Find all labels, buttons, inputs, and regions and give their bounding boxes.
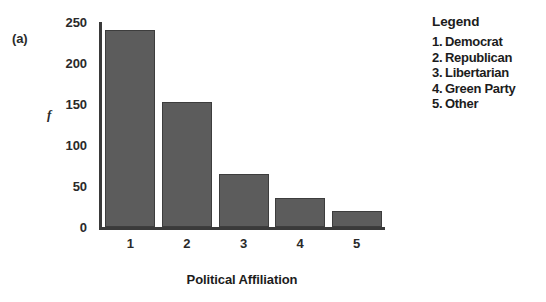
legend-item-number: 4. [432, 81, 445, 97]
y-tick-label: 100 [66, 138, 87, 153]
x-tick-label: 1 [127, 236, 134, 251]
legend-item-label: Democrat [445, 34, 503, 49]
legend-item: 5.Other [432, 96, 542, 112]
legend-item: 4.Green Party [432, 81, 542, 97]
bar [332, 211, 382, 227]
y-tick-label: 50 [73, 179, 87, 194]
legend-item-label: Republican [445, 50, 512, 65]
y-axis-tick-labels: 050100150200250 [0, 22, 95, 230]
legend-title: Legend [432, 14, 542, 29]
y-tick-label: 200 [66, 56, 87, 71]
legend-item-number: 3. [432, 65, 445, 81]
legend-item-number: 2. [432, 50, 445, 66]
x-tick-label: 2 [183, 236, 190, 251]
cropped-chart-title [180, 0, 390, 5]
plot-area [99, 22, 385, 230]
legend-item: 3.Libertarian [432, 65, 542, 81]
x-axis-line [99, 227, 385, 230]
legend-items: 1.Democrat2.Republican3.Libertarian4.Gre… [432, 34, 542, 112]
bar-series [102, 22, 385, 227]
y-tick-label: 150 [66, 97, 87, 112]
y-tick-label: 250 [66, 15, 87, 30]
legend-item: 2.Republican [432, 50, 542, 66]
x-axis-title: Political Affiliation [99, 272, 385, 287]
bar [219, 174, 269, 227]
bar [162, 102, 212, 227]
legend: Legend 1.Democrat2.Republican3.Libertari… [432, 14, 542, 112]
x-tick-label: 4 [296, 236, 303, 251]
bar-chart-figure: (a) 050100150200250 f 12345 Political Af… [0, 0, 546, 302]
legend-item-label: Libertarian [445, 65, 509, 80]
x-tick-label: 5 [353, 236, 360, 251]
legend-item-number: 5. [432, 96, 445, 112]
x-axis-tick-labels: 12345 [99, 236, 385, 256]
legend-item-label: Green Party [445, 81, 515, 96]
bar [275, 198, 325, 227]
y-tick-label: 0 [80, 220, 87, 235]
legend-item: 1.Democrat [432, 34, 542, 50]
legend-item-label: Other [445, 96, 478, 111]
legend-item-number: 1. [432, 34, 445, 50]
y-axis-title: f [47, 107, 51, 123]
bar [105, 30, 155, 227]
x-tick-label: 3 [240, 236, 247, 251]
